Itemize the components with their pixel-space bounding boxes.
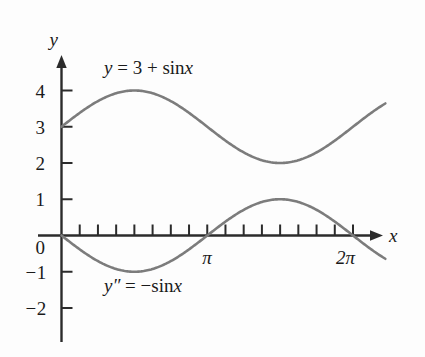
y-axis-arrowhead <box>56 55 66 68</box>
y-tick-label: 4 <box>36 82 46 101</box>
curve-y-equals-3-plus-sin-x <box>62 91 386 164</box>
lower-eq-argument: x <box>173 275 181 296</box>
upper-curve-equation-label: y = 3 + sinx <box>104 58 193 77</box>
lower-eq-lhs: y″ <box>104 275 120 296</box>
upper-eq-function: sin <box>162 57 184 78</box>
plot-canvas <box>0 0 425 357</box>
y-tick-label: 3 <box>36 118 46 137</box>
lower-eq-operator: = − <box>120 275 151 296</box>
y-tick-label: −2 <box>26 299 47 318</box>
upper-eq-argument: x <box>185 57 193 78</box>
lower-curve-equation-label: y″ = −sinx <box>104 276 182 295</box>
x-tick-label: π <box>202 248 212 267</box>
upper-eq-operator: = 3 + <box>112 57 162 78</box>
sine-curves-figure: y x y = 3 + sinx y″ = −sinx 43210−1−2 π2… <box>0 0 425 357</box>
y-tick-label: 2 <box>36 154 46 173</box>
x-axis-label: x <box>389 226 397 245</box>
axes-group <box>38 55 383 342</box>
y-tick-label: 1 <box>36 190 46 209</box>
lower-eq-function: sin <box>151 275 173 296</box>
curves-group <box>62 91 386 272</box>
y-tick-label: 0 <box>36 238 46 257</box>
y-tick-label: −1 <box>26 263 47 282</box>
x-tick-label: 2π <box>336 248 355 267</box>
x-axis-arrowhead <box>370 230 383 240</box>
y-axis-label: y <box>50 30 58 49</box>
